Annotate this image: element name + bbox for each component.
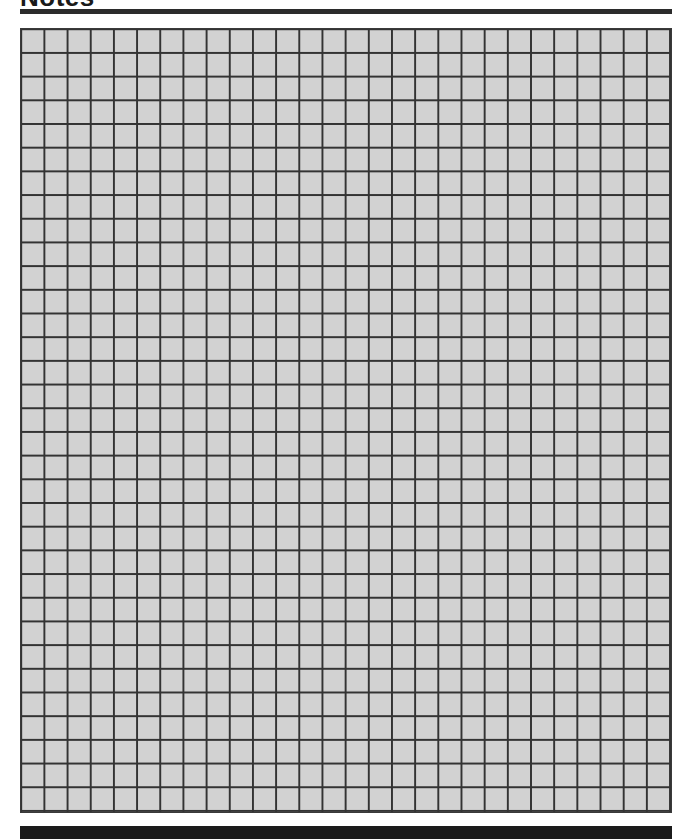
footer-bar: [20, 826, 672, 839]
title-divider: [20, 9, 672, 14]
graph-paper-grid: [20, 28, 672, 813]
